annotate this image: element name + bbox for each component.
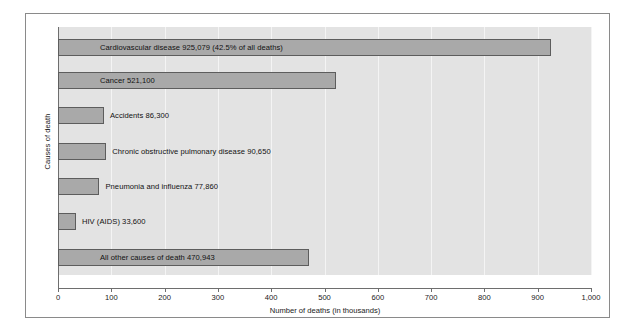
x-tick-label: 500: [305, 293, 345, 302]
x-tick-mark: [111, 289, 112, 292]
gridline: [325, 27, 326, 275]
bar: [58, 178, 99, 195]
x-axis-title: Number of deaths (in thousands): [58, 306, 592, 315]
bar-label: Pneumonia and influenza 77,860: [105, 178, 218, 195]
x-tick-label: 300: [198, 293, 238, 302]
bar: [58, 143, 106, 160]
x-tick-mark: [538, 289, 539, 292]
x-tick-label: 700: [411, 293, 451, 302]
gridline: [538, 27, 539, 275]
x-tick-label: 600: [358, 293, 398, 302]
bar-label: All other causes of death 470,943: [100, 249, 215, 266]
x-tick-mark: [271, 289, 272, 292]
x-tick-label: 800: [464, 293, 504, 302]
x-tick-mark: [325, 289, 326, 292]
y-axis-title: Causes of death: [43, 87, 52, 197]
x-tick-mark: [378, 289, 379, 292]
gridline: [378, 27, 379, 275]
x-tick-mark: [484, 289, 485, 292]
bar-label: Accidents 86,300: [110, 107, 169, 124]
bar: [58, 107, 104, 124]
x-tick-label: 900: [518, 293, 558, 302]
bar-chart: Causes of death Cardiovascular disease 9…: [26, 14, 611, 319]
bar-label: Cardiovascular disease 925,079 (42.5% of…: [100, 39, 283, 56]
x-tick-label: 1,000: [571, 293, 611, 302]
x-tick-label: 100: [91, 293, 131, 302]
gridline: [591, 27, 592, 275]
gridline: [271, 27, 272, 275]
x-tick-mark: [591, 289, 592, 292]
x-tick-label: 400: [251, 293, 291, 302]
x-tick-mark: [431, 289, 432, 292]
bar-label: Chronic obstructive pulmonary disease 90…: [112, 143, 270, 160]
x-tick-mark: [218, 289, 219, 292]
x-tick-label: 0: [38, 293, 78, 302]
bar-label: Cancer 521,100: [100, 72, 155, 89]
gridline: [484, 27, 485, 275]
x-tick-mark: [165, 289, 166, 292]
bar: [58, 213, 76, 230]
x-tick-label: 200: [145, 293, 185, 302]
figure-frame: Causes of death Cardiovascular disease 9…: [25, 13, 610, 318]
x-tick-mark: [58, 289, 59, 292]
bar-label: HIV (AIDS) 33,600: [82, 213, 146, 230]
gridline: [431, 27, 432, 275]
